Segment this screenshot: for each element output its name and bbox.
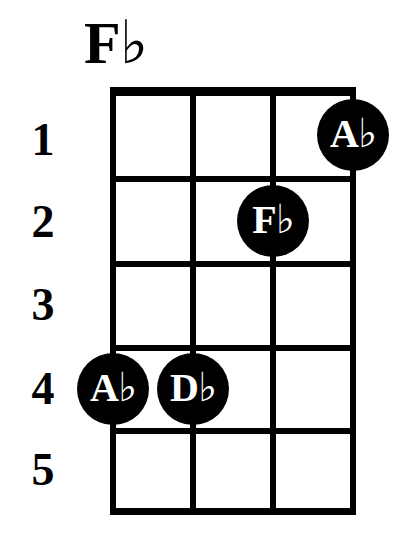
finger-position-dot[interactable]: F♭	[237, 185, 309, 257]
finger-dot-label: A♭	[317, 114, 389, 154]
fret-number-label: 4	[12, 366, 74, 412]
fret-line	[110, 261, 356, 267]
fret-number-label: 3	[12, 282, 74, 328]
fret-number-label: 2	[12, 199, 74, 245]
fretboard-bottom-edge	[110, 508, 356, 515]
finger-dot-label: F♭	[237, 200, 309, 240]
finger-dot-label: D♭	[157, 368, 229, 408]
string-line-2	[190, 87, 196, 515]
chord-diagram-sheet: F♭ 12345 A♭F♭A♭D♭	[0, 0, 401, 542]
fret-line	[110, 428, 356, 434]
string-line-1	[110, 87, 116, 515]
string-line-3	[270, 87, 276, 515]
fretboard-grid: A♭F♭A♭D♭	[108, 86, 358, 516]
fret-line	[110, 176, 356, 182]
fret-number-label: 5	[12, 447, 74, 493]
fret-number-column: 12345	[12, 91, 74, 511]
finger-position-dot[interactable]: D♭	[157, 353, 229, 425]
chord-name-title: F♭	[84, 8, 204, 78]
finger-position-dot[interactable]: A♭	[317, 99, 389, 171]
nut-line	[110, 87, 356, 96]
finger-position-dot[interactable]: A♭	[77, 353, 149, 425]
fret-number-label: 1	[12, 117, 74, 163]
finger-dot-label: A♭	[77, 368, 149, 408]
fret-line	[110, 345, 356, 351]
